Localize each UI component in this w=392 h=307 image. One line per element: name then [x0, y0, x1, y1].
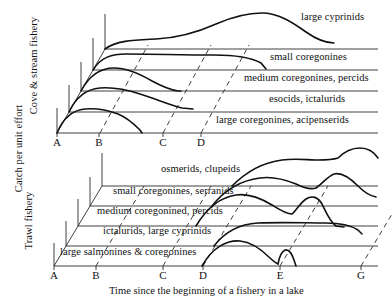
curve-osmerids-clupeids	[232, 148, 378, 186]
xtick-top-B: B	[92, 136, 106, 148]
series-label-medium-coregonined-percids: medium coregonined, percids	[97, 205, 223, 216]
fishery-succession-figure	[0, 0, 392, 307]
series-label-large-coregonines-acipenserids: large coregonines, acipenserids	[216, 114, 349, 125]
xtick-bottom-D: D	[196, 269, 210, 281]
curve-large-cyprinids	[105, 13, 334, 49]
series-label-medium-coregonines-percids: medium coregonines, percids	[244, 72, 369, 83]
panel-label-trawl-fishery: Trawl fishery	[23, 181, 34, 261]
series-label-ictalurids-large-cyprinids: ictalurids, large cyprinids	[103, 225, 211, 236]
xtick-top-D: D	[194, 136, 208, 148]
series-label-small-coregonines-serranids: small coregonines, serranids	[113, 185, 234, 196]
xtick-bottom-G: G	[354, 269, 368, 281]
top-panel-depth-axis	[57, 14, 105, 133]
series-label-large-salmonines-coregonines: large salmonines & coregonines	[60, 246, 196, 257]
series-label-esocids-ictalurids: esocids, ictalurids	[269, 93, 345, 104]
curve-small-coregonines-serranids	[212, 174, 376, 206]
panel-label-cove-stream-fishery: Cove & stream fishery	[28, 6, 39, 126]
series-label-osmerids-clupeids: osmerids, clupeids	[161, 163, 240, 174]
xtick-bottom-E: E	[273, 269, 287, 281]
xtick-top-A: A	[50, 136, 64, 148]
xtick-bottom-B: B	[89, 269, 103, 281]
axis-title-time-since-beginning: Time since the beginning of a fishery in…	[109, 285, 304, 296]
xtick-bottom-A: A	[47, 269, 61, 281]
top-panel-xticks	[57, 133, 201, 137]
succession-line-5	[361, 214, 392, 266]
curve-medium-coregonines-percids	[81, 68, 181, 91]
xtick-top-C: C	[156, 136, 170, 148]
xtick-bottom-C: C	[156, 269, 170, 281]
series-label-small-coregonines: small coregonines	[270, 51, 347, 62]
series-label-large-cyprinids: large cyprinids	[301, 11, 364, 22]
